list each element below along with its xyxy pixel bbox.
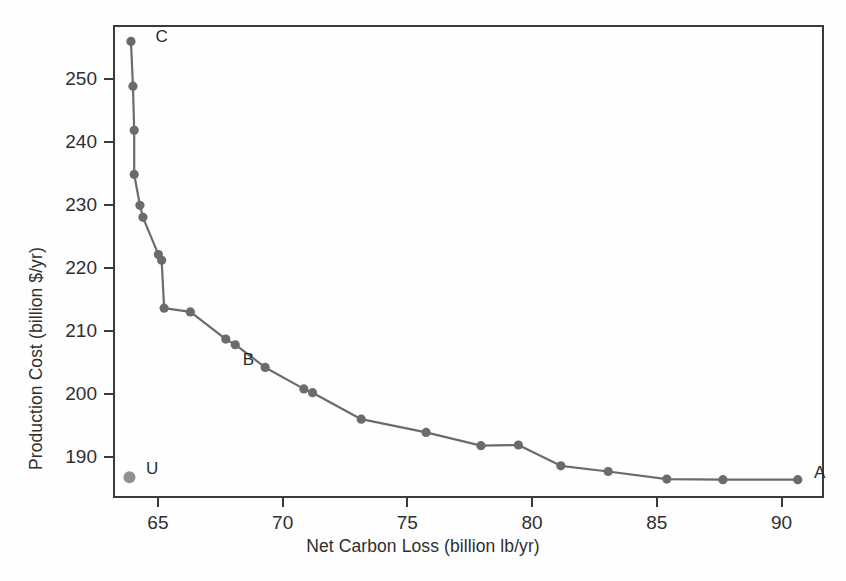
data-point[interactable] [662, 474, 671, 483]
x-tick-label: 75 [397, 512, 418, 534]
series-line [131, 41, 798, 479]
y-tick-label: 220 [65, 257, 97, 279]
point-label-u: U [146, 459, 158, 479]
y-tick-label: 210 [65, 320, 97, 342]
y-tick [104, 456, 113, 458]
data-point[interactable] [157, 256, 166, 265]
x-tick [282, 498, 284, 507]
x-tick-label: 80 [522, 512, 543, 534]
data-point[interactable] [138, 213, 147, 222]
point-label-b: B [243, 350, 254, 370]
data-point[interactable] [231, 340, 240, 349]
y-tick [104, 393, 113, 395]
y-tick-label: 190 [65, 446, 97, 468]
data-layer [113, 25, 824, 498]
data-point[interactable] [357, 415, 366, 424]
x-tick [406, 498, 408, 507]
y-tick [104, 267, 113, 269]
x-tick [656, 498, 658, 507]
x-tick-label: 65 [147, 512, 168, 534]
data-point[interactable] [123, 471, 135, 483]
plot-area [113, 25, 824, 498]
data-point[interactable] [135, 201, 144, 210]
data-point[interactable] [299, 384, 308, 393]
y-tick [104, 141, 113, 143]
data-point[interactable] [128, 82, 137, 91]
data-point[interactable] [556, 461, 565, 470]
data-point[interactable] [160, 304, 169, 313]
y-tick-label: 240 [65, 131, 97, 153]
x-tick-label: 85 [646, 512, 667, 534]
y-tick-label: 230 [65, 194, 97, 216]
data-point[interactable] [130, 126, 139, 135]
data-point[interactable] [186, 307, 195, 316]
data-point[interactable] [221, 334, 230, 343]
x-tick [157, 498, 159, 507]
data-point[interactable] [718, 475, 727, 484]
x-axis-label: Net Carbon Loss (billion lb/yr) [0, 536, 846, 557]
data-point[interactable] [604, 467, 613, 476]
data-point[interactable] [421, 428, 430, 437]
y-tick [104, 78, 113, 80]
x-tick [531, 498, 533, 507]
data-point[interactable] [514, 440, 523, 449]
point-label-c: C [155, 27, 167, 47]
x-tick-label: 90 [771, 512, 792, 534]
y-tick-label: 200 [65, 383, 97, 405]
data-point[interactable] [793, 475, 802, 484]
y-axis-label: Production Cost (billion $/yr) [26, 247, 47, 470]
point-label-a: A [814, 463, 825, 483]
data-point[interactable] [130, 170, 139, 179]
x-tick [781, 498, 783, 507]
data-point[interactable] [308, 388, 317, 397]
y-tick-label: 250 [65, 68, 97, 90]
chart-figure: 657075808590190200210220230240250 CBUA N… [0, 0, 846, 581]
x-tick-label: 70 [272, 512, 293, 534]
y-tick [104, 330, 113, 332]
data-point[interactable] [261, 363, 270, 372]
data-point[interactable] [476, 441, 485, 450]
y-tick [104, 204, 113, 206]
data-point[interactable] [126, 37, 135, 46]
